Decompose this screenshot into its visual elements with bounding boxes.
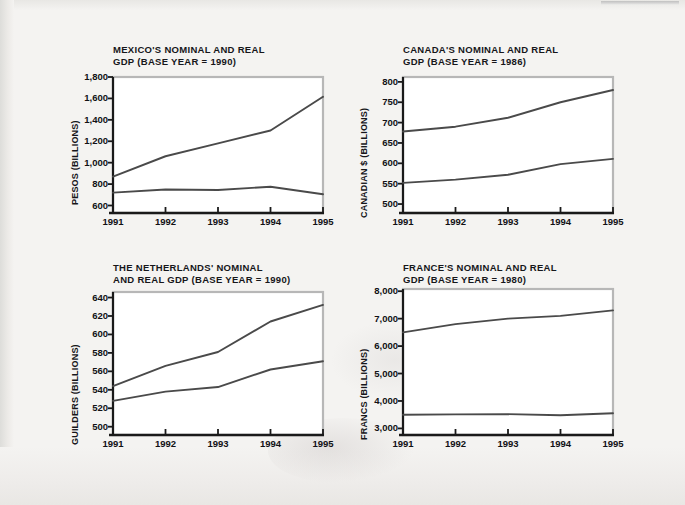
chart-panel-netherlands: THE NETHERLANDS' NOMINAL AND REAL GDP (B… bbox=[0, 240, 340, 505]
chart-panel-mexico: MEXICO'S NOMINAL AND REAL GDP (BASE YEAR… bbox=[0, 0, 340, 240]
chart-panel-france: FRANCE'S NOMINAL AND REAL GDP (BASE YEAR… bbox=[345, 240, 685, 505]
plot-area-mexico bbox=[0, 0, 340, 240]
chart-panel-canada: CANADA'S NOMINAL AND REAL GDP (BASE YEAR… bbox=[345, 0, 685, 240]
plot-area-france bbox=[345, 240, 685, 505]
plot-area-netherlands bbox=[0, 240, 340, 505]
plot-area-canada bbox=[345, 0, 685, 240]
scanned-page: MEXICO'S NOMINAL AND REAL GDP (BASE YEAR… bbox=[0, 0, 685, 505]
